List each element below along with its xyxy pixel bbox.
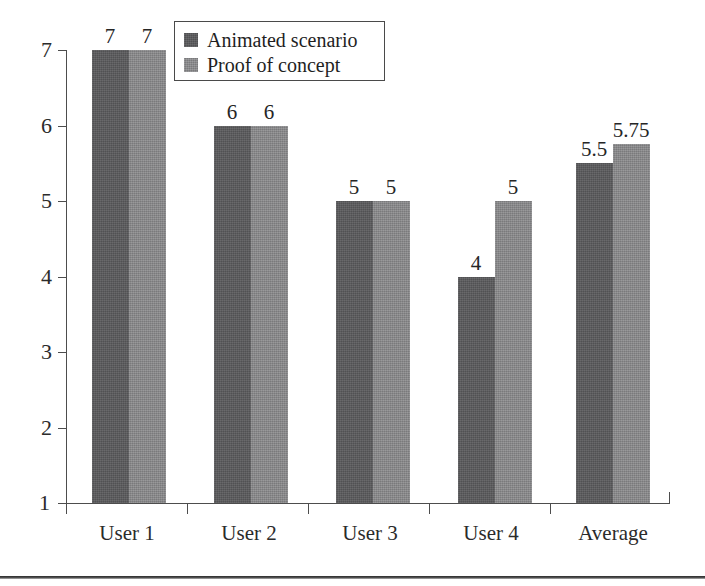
x-tick-4 [550, 503, 551, 514]
bar-user-2-proof-of-concept[interactable] [251, 126, 288, 503]
bar-value-user-4-proof-of-concept: 5 [478, 177, 548, 198]
legend-label-animated-scenario: Animated scenario [207, 30, 358, 50]
x-tick-3 [429, 503, 430, 514]
x-axis-label-user-1: User 1 [57, 523, 197, 544]
y-tick-6 [58, 126, 67, 127]
bar-user-2-animated-scenario[interactable] [214, 126, 251, 503]
y-axis-label-3: 3 [12, 341, 52, 363]
bar-user-4-proof-of-concept[interactable] [495, 201, 532, 503]
x-axis-label-average: Average [543, 523, 683, 544]
x-axis-label-user-2: User 2 [179, 523, 319, 544]
y-tick-4 [58, 277, 67, 278]
bar-user-4-animated-scenario[interactable] [458, 277, 495, 503]
y-tick-7 [58, 50, 67, 51]
bar-average-proof-of-concept[interactable] [613, 144, 650, 503]
bar-chart-figure: 7 6 5 4 3 2 1 7 7 6 6 5 5 4 5 5.5 5.75 U… [0, 0, 705, 586]
y-axis-label-7: 7 [12, 39, 52, 61]
x-tick-start [66, 503, 67, 514]
y-tick-2 [58, 428, 67, 429]
legend-item-animated-scenario[interactable]: Animated scenario [184, 27, 376, 52]
x-axis-line [66, 503, 670, 504]
x-axis-label-user-4: User 4 [421, 523, 561, 544]
legend-swatch-proof-of-concept-icon [184, 58, 198, 72]
y-axis-label-1: 1 [10, 492, 50, 514]
page-footer-rule [0, 576, 705, 579]
bar-value-average-proof-of-concept: 5.75 [596, 120, 666, 141]
x-tick-2 [308, 503, 309, 514]
chart-legend: Animated scenario Proof of concept [174, 21, 385, 81]
bar-user-1-proof-of-concept[interactable] [129, 50, 166, 503]
bar-user-3-proof-of-concept[interactable] [373, 201, 410, 503]
y-axis-label-6: 6 [12, 115, 52, 137]
y-axis-label-5: 5 [12, 190, 52, 212]
bar-average-animated-scenario[interactable] [576, 163, 613, 503]
bar-value-user-3-proof-of-concept: 5 [356, 177, 426, 198]
x-tick-1 [187, 503, 188, 514]
bar-user-1-animated-scenario[interactable] [92, 50, 129, 503]
legend-item-proof-of-concept[interactable]: Proof of concept [184, 52, 376, 77]
bar-value-average-animated-scenario: 5.5 [559, 139, 629, 160]
x-axis-label-user-3: User 3 [300, 523, 440, 544]
bar-value-user-1-proof-of-concept: 7 [112, 26, 182, 47]
y-axis-label-2: 2 [12, 417, 52, 439]
bar-value-user-2-proof-of-concept: 6 [234, 102, 304, 123]
bar-user-3-animated-scenario[interactable] [336, 201, 373, 503]
y-tick-3 [58, 352, 67, 353]
y-tick-5 [58, 201, 67, 202]
bar-value-user-4-animated-scenario: 4 [441, 253, 511, 274]
legend-label-proof-of-concept: Proof of concept [207, 55, 340, 75]
x-axis-right-cap [669, 492, 670, 504]
legend-swatch-animated-scenario-icon [184, 33, 198, 47]
y-axis-label-4: 4 [12, 266, 52, 288]
